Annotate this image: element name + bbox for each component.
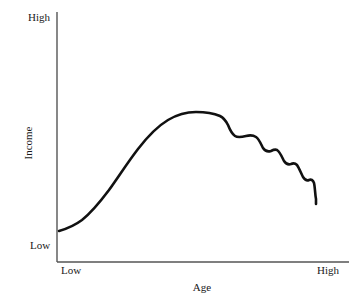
y-axis-high-tick-label: High: [28, 11, 50, 23]
x-axis-title: Age: [172, 281, 232, 293]
chart-plot-area: [0, 0, 360, 302]
income-age-chart: High Low Low High Income Age: [0, 0, 360, 302]
y-axis-title: Income: [22, 108, 34, 178]
y-axis-low-tick-label: Low: [30, 239, 50, 251]
x-axis-low-tick-label: Low: [61, 264, 81, 276]
income-curve-line: [59, 112, 316, 231]
x-axis-high-tick-label: High: [317, 264, 339, 276]
